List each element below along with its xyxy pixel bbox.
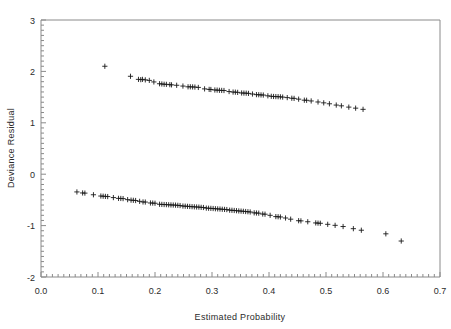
x-tick-label: 0.4 (263, 286, 276, 296)
y-tick-label: 1 (30, 118, 35, 128)
x-tick-label: 0.6 (377, 286, 390, 296)
y-tick-label: -1 (27, 221, 35, 231)
x-axis-title: Estimated Probability (195, 312, 286, 322)
deviance-residual-scatter-plot: 0.00.10.20.30.40.50.60.7 3210-1-2 Estima… (0, 0, 451, 329)
y-axis-title: Deviance Residual (6, 108, 16, 188)
chart-background (0, 0, 451, 329)
y-tick-label: -2 (27, 273, 35, 283)
chart-canvas: 0.00.10.20.30.40.50.60.7 3210-1-2 Estima… (0, 0, 451, 329)
y-tick-label: 2 (30, 67, 35, 77)
y-tick-label: 0 (30, 170, 35, 180)
x-tick-label: 0.2 (149, 286, 162, 296)
x-tick-label: 0.3 (206, 286, 219, 296)
x-tick-label: 0.7 (434, 286, 447, 296)
y-tick-label: 3 (30, 16, 35, 26)
x-tick-label: 0.0 (35, 286, 48, 296)
x-tick-label: 0.1 (92, 286, 105, 296)
x-tick-label: 0.5 (320, 286, 333, 296)
